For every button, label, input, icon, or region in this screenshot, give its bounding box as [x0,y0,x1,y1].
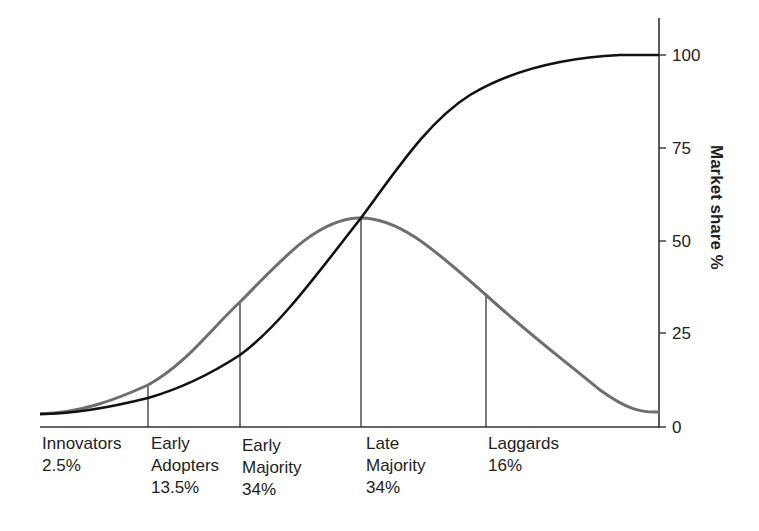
label-laggards: Laggards 16% [488,433,559,477]
tick-label-100: 100 [672,47,700,64]
label-innovators-share: 2.5% [42,455,121,477]
tick-label-25: 25 [672,325,691,342]
label-laggards-share: 16% [488,455,559,477]
label-late-majority: Late Majority 34% [366,433,426,499]
tick-label-50: 50 [672,233,691,250]
label-innovators: Innovators 2.5% [42,433,121,477]
label-laggards-name: Laggards [488,433,559,455]
label-early-majority-share: 34% [242,479,302,501]
segment-dividers [148,218,486,427]
tick-label-75: 75 [672,140,691,157]
y-axis-label: Market share % [706,145,726,270]
s-curve [40,55,659,414]
bell-curve [40,218,659,414]
label-late-majority-share: 34% [366,477,426,499]
label-early-adopters-line1: Early [151,433,219,455]
label-early-majority-line1: Early [242,435,302,457]
label-early-majority: Early Majority 34% [242,435,302,501]
y-axis-ticks [659,55,666,427]
label-late-majority-line2: Majority [366,455,426,477]
label-innovators-name: Innovators [42,433,121,455]
label-early-adopters-share: 13.5% [151,477,219,499]
label-early-majority-line2: Majority [242,457,302,479]
label-early-adopters-line2: Adopters [151,455,219,477]
tick-label-0: 0 [672,419,681,436]
label-early-adopters: Early Adopters 13.5% [151,433,219,499]
label-late-majority-line1: Late [366,433,426,455]
